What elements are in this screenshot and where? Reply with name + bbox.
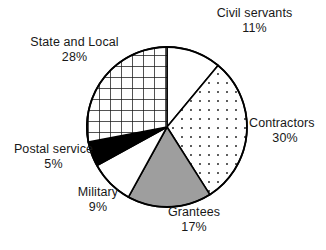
pie-label-grantees: Grantees 17% bbox=[144, 205, 244, 236]
pie-label-state-and-local-value: 28% bbox=[11, 50, 138, 65]
pie-label-contractors-name: Contractors bbox=[249, 116, 326, 131]
pie-label-grantees-name: Grantees bbox=[144, 205, 244, 220]
pie-label-civil-servants-value: 11% bbox=[192, 21, 317, 36]
pie-label-postal-service-value: 5% bbox=[2, 157, 105, 172]
pie-label-contractors: Contractors 30% bbox=[249, 116, 326, 147]
pie-label-civil-servants-name: Civil servants bbox=[192, 6, 317, 21]
pie-label-civil-servants: Civil servants 11% bbox=[192, 6, 317, 37]
pie-label-postal-service: Postal service 5% bbox=[2, 142, 105, 173]
pie-label-military-name: Military bbox=[51, 185, 145, 200]
pie-label-state-and-local: State and Local 28% bbox=[11, 35, 138, 66]
pie-label-military-value: 9% bbox=[51, 200, 145, 215]
pie-label-contractors-value: 30% bbox=[249, 131, 321, 146]
pie-label-postal-service-name: Postal service bbox=[2, 142, 105, 157]
pie-label-state-and-local-name: State and Local bbox=[11, 35, 138, 50]
pie-label-military: Military 9% bbox=[51, 185, 145, 216]
pie-label-grantees-value: 17% bbox=[144, 220, 244, 235]
pie-chart-figure: Civil servants 11% State and Local 28% C… bbox=[0, 0, 326, 250]
